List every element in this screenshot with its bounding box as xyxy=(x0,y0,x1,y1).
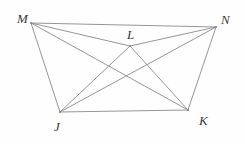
vertex-point-group xyxy=(30,22,217,113)
geometry-figure: MNLJK xyxy=(0,0,245,144)
segment-jk xyxy=(60,110,188,112)
vertex-label-l: L xyxy=(127,28,134,41)
vertex-label-j: J xyxy=(54,120,60,133)
segment-group xyxy=(31,23,216,112)
vertex-point-l xyxy=(129,45,131,47)
segment-ml xyxy=(31,23,130,46)
segment-lk xyxy=(130,46,188,110)
segment-mn xyxy=(31,23,216,27)
vertex-label-m: M xyxy=(17,12,28,25)
vertex-label-n: N xyxy=(221,13,230,26)
segment-nj xyxy=(60,27,216,112)
vertex-point-k xyxy=(187,109,189,111)
vertex-point-n xyxy=(215,26,217,28)
segment-nl xyxy=(130,27,216,46)
vertex-point-j xyxy=(59,111,61,113)
vertex-point-m xyxy=(30,22,32,24)
segment-jl xyxy=(60,46,130,112)
vertex-label-k: K xyxy=(199,114,208,127)
segment-mk xyxy=(31,23,188,110)
segment-nk xyxy=(188,27,216,110)
geometry-canvas xyxy=(0,0,245,144)
